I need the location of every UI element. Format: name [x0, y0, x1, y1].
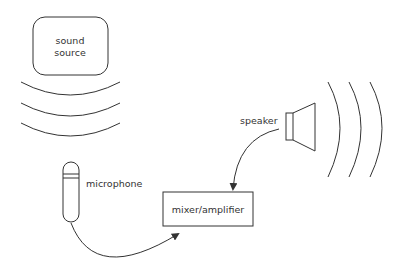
sound-source-node: sound source	[33, 17, 108, 75]
microphone-label: microphone	[86, 178, 143, 189]
speaker-icon	[286, 103, 315, 151]
speaker-waves-icon	[328, 82, 382, 177]
sound-source-label-line2: source	[54, 47, 86, 58]
audio-feedback-diagram: sound source speaker microphone mixer/am…	[0, 0, 407, 276]
microphone-to-mixer-arrow	[71, 223, 178, 257]
mixer-amplifier-label: mixer/amplifier	[172, 204, 244, 215]
sound-source-label-line1: sound	[56, 35, 85, 46]
speaker-label: speaker	[240, 115, 278, 126]
sound-waves-icon	[21, 82, 120, 136]
mixer-amplifier-node: mixer/amplifier	[163, 192, 253, 226]
microphone-icon	[63, 162, 79, 222]
speaker-to-mixer-arrow	[233, 129, 279, 189]
